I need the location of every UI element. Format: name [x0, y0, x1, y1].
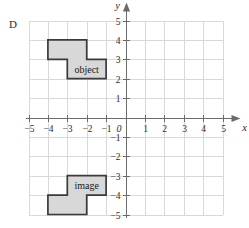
y-axis-tick-label: 5	[116, 17, 121, 27]
x-axis-tick-label: 1	[143, 124, 148, 134]
x-axis-tick-label: −4	[43, 124, 53, 134]
x-axis-tick-label: 4	[201, 124, 206, 134]
part-label-d: D	[9, 19, 17, 30]
x-axis-tick-label: 2	[162, 124, 167, 134]
x-axis-tick-label: −3	[62, 124, 72, 134]
x-axis-tick-label: −5	[24, 124, 34, 134]
x-axis-tick-label: 5	[221, 124, 226, 134]
x-axis-tick-label: 3	[182, 124, 187, 134]
y-axis-tick-label: −1	[110, 133, 120, 143]
shape-label-image: image	[74, 180, 99, 191]
x-axis-name: x	[241, 122, 247, 133]
shape-label-object: object	[74, 64, 99, 75]
coordinate-plane-svg: −5−4−3−2−11234554321−1−2−3−4−5 0xyobject…	[0, 0, 249, 228]
y-axis-name: y	[114, 0, 120, 11]
y-axis-tick-label: 3	[116, 55, 121, 65]
labels-group: 0xyobjectimage	[74, 0, 247, 191]
y-axis-tick-label: −2	[110, 152, 120, 162]
coordinate-grid-figure: D −5−4−3−2−11234554321−1−2−3−4−5 0xyobje…	[0, 0, 249, 228]
x-axis-tick-label: −2	[82, 124, 92, 134]
y-axis-tick-label: 1	[116, 94, 121, 104]
y-axis-tick-label: 4	[116, 36, 121, 46]
axes-group	[26, 3, 241, 218]
x-axis-arrowhead-icon	[232, 115, 241, 122]
origin-label: 0	[117, 123, 122, 134]
y-axis-tick-label: 2	[116, 75, 121, 85]
y-axis-tick-label: −4	[110, 191, 120, 201]
y-axis-tick-label: −3	[110, 172, 120, 182]
y-axis-arrowhead-icon	[123, 3, 130, 12]
y-axis-tick-label: −5	[110, 211, 120, 221]
